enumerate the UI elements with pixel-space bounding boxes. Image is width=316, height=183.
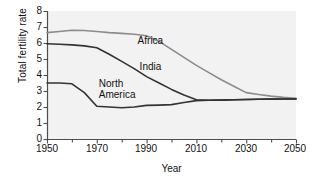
plot-canvas: [0, 0, 316, 183]
series-label-north-america-line1: North: [99, 78, 123, 89]
x-tick-label-1970: 1970: [77, 143, 117, 154]
series-label-north-america-line2: America: [99, 89, 136, 100]
series-label-africa: Africa: [138, 35, 164, 46]
x-tick-label-2010: 2010: [176, 143, 216, 154]
x-tick-label-2030: 2030: [226, 143, 266, 154]
x-tick-label-2050: 2050: [275, 143, 315, 154]
x-tick-label-1990: 1990: [126, 143, 166, 154]
x-axis-title: Year: [47, 163, 296, 174]
series-label-india: India: [140, 61, 162, 72]
x-tick-label-1950: 1950: [27, 143, 67, 154]
series-label-north-america: North America: [99, 78, 136, 100]
fertility-rate-chart: Total fertility rate 8 7 6 5 4 3 2 1 0 1…: [0, 0, 316, 183]
